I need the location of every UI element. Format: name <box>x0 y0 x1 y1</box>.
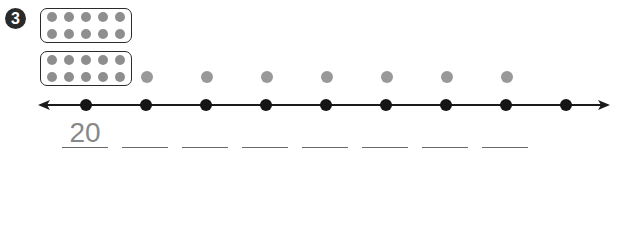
answer-blank[interactable] <box>482 147 528 148</box>
number-line-point <box>260 99 272 111</box>
answer-blank[interactable] <box>242 147 288 148</box>
number-line-point <box>500 99 512 111</box>
number-line-point <box>200 99 212 111</box>
answer-blank[interactable] <box>122 147 168 148</box>
number-line-point <box>560 99 572 111</box>
number-line-point <box>140 99 152 111</box>
answer-blank[interactable] <box>422 147 468 148</box>
answer-text: 20 <box>62 119 108 147</box>
answer-blank[interactable] <box>302 147 348 148</box>
number-line-point <box>320 99 332 111</box>
number-line-point <box>80 99 92 111</box>
answer-blank[interactable] <box>182 147 228 148</box>
number-line-point <box>380 99 392 111</box>
number-line-point <box>440 99 452 111</box>
answer-blank[interactable] <box>362 147 408 148</box>
